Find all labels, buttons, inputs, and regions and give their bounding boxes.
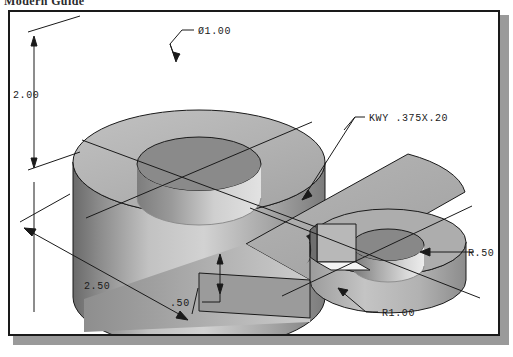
dim-small-bore-radius-label: R.50: [468, 248, 494, 259]
plate-front-slab: [199, 273, 310, 318]
dim-center-distance-label: 2.50: [84, 281, 110, 292]
dim-bore-diameter-label: Ø1.00: [198, 26, 231, 37]
dim-plate-thickness-label: .50: [170, 298, 190, 309]
page-title: Modern Guide: [4, 0, 84, 9]
dim-boss-height-label: 2.00: [13, 90, 39, 101]
dim-boss-outer-radius-label: R1.00: [382, 308, 415, 319]
keyway-notch-side: [310, 224, 317, 262]
screenshot-page: Modern Guide: [0, 0, 513, 357]
isometric-cad-drawing: Ø1.00 2.00 KWY: [10, 12, 498, 334]
big-bore-opening: [137, 137, 261, 191]
drawing-frame: Ø1.00 2.00 KWY: [8, 10, 500, 336]
dim-keyway-label: KWY .375X.20: [369, 113, 448, 124]
dim-bore-diameter: Ø1.00: [170, 26, 231, 62]
keyway-notch-wall: [317, 224, 356, 262]
dim-boss-height: 2.00: [13, 16, 80, 312]
